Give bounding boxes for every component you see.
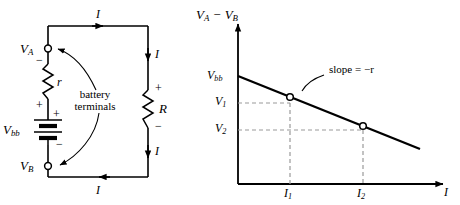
resistor-r-symbol: [43, 64, 53, 99]
y-tick-label-vbb: Vbb: [207, 69, 223, 83]
data-point-2: [360, 123, 367, 130]
label-node-a-sub: A: [28, 47, 33, 57]
x-axis-label: I: [444, 186, 448, 198]
label-current-right-upper: I: [155, 48, 159, 60]
leader-line-terminal-a: [58, 49, 96, 90]
label-current-top: I: [96, 8, 100, 20]
sign-battery-top: +: [53, 108, 60, 120]
x-tick-label-i2-sub: 2: [361, 192, 365, 201]
y-axis-label-sub-b: B: [233, 13, 238, 23]
x-tick-label-i1: I1: [284, 187, 292, 201]
leader-line-slope: [302, 75, 324, 91]
resistor-R-symbol: [143, 90, 153, 128]
annotation-line-2: terminals: [64, 100, 126, 112]
y-tick-label-v1-sub: 1: [222, 100, 226, 109]
y-tick-label-v2: V2: [215, 122, 226, 136]
label-node-b-sub: B: [28, 164, 33, 174]
sign-r-bottom: +: [36, 99, 43, 111]
graph-plot: [238, 24, 443, 184]
y-tick-label-vbb-sub: bb: [214, 74, 222, 83]
label-resistor-r: r: [57, 76, 62, 88]
label-current-right-lower: I: [155, 145, 159, 157]
sign-battery-bottom: −: [56, 138, 63, 150]
terminal-b-node: [45, 163, 52, 170]
annotation-line-1: battery: [64, 88, 126, 100]
terminal-a-node: [45, 45, 52, 52]
y-axis-label: VA − VB: [196, 8, 238, 23]
y-tick-label-v1: V1: [215, 95, 226, 109]
sign-R-bottom: −: [155, 120, 162, 132]
data-line-terminal-voltage: [238, 76, 420, 149]
sign-r-top: −: [36, 54, 43, 66]
label-resistor-R: R: [159, 102, 167, 115]
label-emf-sub: bb: [11, 128, 20, 138]
label-emf: Vbb: [3, 123, 20, 138]
label-current-bottom: I: [96, 184, 100, 196]
slope-annotation: slope = −r: [329, 64, 374, 75]
annotation-battery-terminals: battery terminals: [64, 88, 126, 113]
x-tick-label-i1-sub: 1: [288, 192, 292, 201]
data-point-1: [287, 94, 294, 101]
physics-figure: VA − r + + Vbb − VB battery terminals + …: [0, 0, 460, 205]
leader-line-terminal-b: [60, 113, 99, 165]
x-tick-label-i2: I2: [357, 187, 365, 201]
label-node-b: VB: [20, 159, 33, 174]
y-tick-label-v2-sub: 2: [222, 127, 226, 136]
sign-R-top: +: [155, 82, 162, 94]
label-node-a: VA: [20, 42, 33, 57]
